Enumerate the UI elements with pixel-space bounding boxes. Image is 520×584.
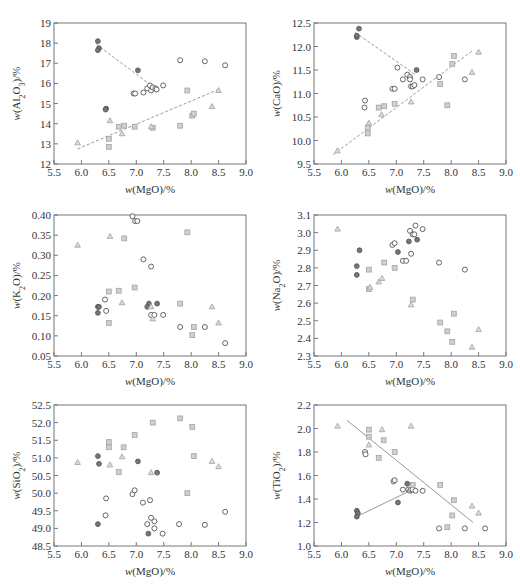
y-tick-label: 2.5 [297,315,311,327]
data-point-triangle [75,242,81,247]
data-point-circle-filled [357,26,362,31]
data-point-circle-open [161,312,166,317]
y-axis-label: w(SiO2)/% [10,451,27,499]
data-point-square [122,236,127,241]
data-point-triangle [107,462,113,467]
x-tick-label: 6.5 [102,358,116,370]
x-tick-label: 7.0 [129,548,143,560]
data-point-square [185,88,190,93]
data-point-circle-open [141,90,146,95]
trend-line [96,44,150,84]
data-point-triangle [408,423,414,428]
data-point-circle-filled [97,461,102,466]
y-tick-label: 1.4 [297,493,311,505]
data-point-square [178,416,183,421]
x-tick-label: 8.0 [444,548,458,560]
data-point-square [106,321,111,326]
x-tick-label: 8.0 [184,358,198,370]
data-point-circle-filled [354,514,359,519]
y-axis-label: w(CaO)/% [270,70,283,117]
y-tick-label: 12.0 [292,41,312,53]
y-tick-label: 0.15 [32,310,52,322]
data-point-circle-open [437,526,442,531]
data-point-circle-filled [396,250,401,255]
x-tick-label: 7.5 [157,358,171,370]
y-tick-label: 1.2 [297,517,311,529]
data-point-circle-open [437,75,442,80]
x-tick-label: 7.5 [157,166,171,178]
y-tick-label: 51.0 [32,452,52,464]
scatter-grid: 5.56.06.57.07.58.08.59.01213141516171819… [0,0,520,584]
x-tick-label: 7.0 [389,166,403,178]
data-point-circle-filled [155,301,160,306]
data-point-circle-filled [414,68,419,73]
data-point-circle-open [400,77,405,82]
data-point-circle-open [140,500,145,505]
x-axis-label: w(MgO)/% [385,565,435,578]
data-point-circle-open [408,77,413,82]
data-point-square [392,265,397,270]
x-tick-label: 6.0 [75,548,89,560]
data-point-square [438,483,443,488]
x-tick-label: 9.0 [239,358,253,370]
y-tick-label: 19 [40,17,52,29]
data-point-square [451,54,456,59]
y-tick-label: 0.20 [32,290,52,302]
data-point-circle-open [145,522,150,527]
data-point-square [392,450,397,455]
data-point-triangle [148,470,154,475]
data-point-circle-open [177,522,182,527]
data-point-square [106,289,111,294]
data-point-square [116,288,121,293]
x-tick-label: 6.0 [75,166,89,178]
data-point-square [445,329,450,334]
data-point-square [106,136,111,141]
data-point-triangle [75,459,81,464]
data-point-circle-open [392,478,397,483]
data-point-circle-open [104,496,109,501]
y-tick-label: 3.1 [297,209,311,221]
data-point-square [438,82,443,87]
panel-2: 5.56.06.57.07.58.08.59.09.510.010.511.01… [270,17,513,196]
y-tick-label: 12 [40,158,51,170]
data-point-circle-filled [407,239,412,244]
data-point-circle-open [392,86,397,91]
data-point-square [450,340,455,345]
y-tick-label: 15 [40,98,52,110]
data-point-triangle [408,99,414,104]
data-point-circle-open [420,77,425,82]
x-tick-label: 9.0 [239,166,253,178]
data-point-triangle [379,427,385,432]
data-point-triangle [335,423,341,428]
y-tick-label: 0.25 [32,269,52,281]
x-tick-label: 9.0 [239,548,253,560]
data-point-square [106,440,111,445]
y-tick-label: 11.0 [292,88,311,100]
trend-line [347,420,473,522]
x-tick-label: 7.5 [157,548,171,560]
data-point-triangle [119,454,125,459]
data-point-circle-filled [95,310,100,315]
data-point-circle-open [160,531,165,536]
data-point-square [121,445,126,450]
x-axis-label: w(MgO)/% [385,183,435,196]
data-point-square [376,455,381,460]
x-tick-label: 6.5 [362,166,376,178]
panel-5: 5.56.06.57.07.58.08.59.048.549.049.550.0… [10,399,253,578]
data-point-circle-open [161,83,166,88]
data-point-circle-open [104,308,109,313]
y-tick-label: 9.5 [297,158,311,170]
y-tick-label: 2.0 [297,423,311,435]
data-point-square [150,420,155,425]
x-axis-label: w(MgO)/% [125,375,175,388]
panel-6: 5.56.06.57.07.58.08.59.01.01.21.41.61.82… [270,399,513,578]
data-point-circle-open [409,251,414,256]
x-tick-label: 7.5 [417,358,431,370]
data-point-circle-filled [354,33,359,38]
data-point-triangle [366,120,372,125]
data-point-circle-open [420,488,425,493]
data-point-circle-open [141,257,146,262]
y-tick-label: 2.8 [297,262,311,274]
y-tick-label: 0.35 [32,229,52,241]
x-tick-label: 8.5 [472,166,486,178]
